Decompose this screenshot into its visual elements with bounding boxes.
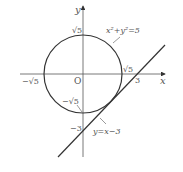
circle-equation-label: x²+y²=5 bbox=[106, 26, 140, 35]
y-axis-label: y bbox=[74, 4, 81, 15]
line-label-leader bbox=[100, 118, 106, 124]
tick-label-y-bottom: −√5 bbox=[62, 97, 79, 106]
line-equation-label: y=x−3 bbox=[92, 127, 121, 136]
x-axis-label: x bbox=[160, 75, 166, 86]
tick-label-y-top: √5 bbox=[72, 26, 82, 35]
circle-label-leader bbox=[113, 37, 120, 43]
neg-sqrt5-leader bbox=[77, 105, 82, 112]
tick-label-x-left: −√5 bbox=[22, 77, 39, 86]
tick-label-x-right: √5 bbox=[123, 65, 133, 74]
diagram-canvas: y x O √5 √5 −√5 −√5 3 −3 x²+y²=5 y=x−3 bbox=[0, 0, 183, 172]
tick-label-x-three: 3 bbox=[135, 76, 140, 85]
tick-label-y-neg-three: −3 bbox=[70, 124, 82, 133]
origin-label: O bbox=[74, 76, 81, 86]
